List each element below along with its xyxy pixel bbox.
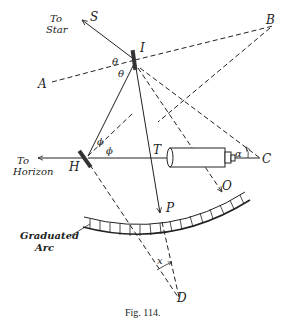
- label-d: D: [176, 291, 187, 305]
- label-b: B: [265, 13, 275, 27]
- label-i: I: [139, 41, 145, 55]
- dashed-line-i-o: [138, 68, 222, 192]
- label-phi-upper: ϕ: [97, 136, 104, 147]
- figure-caption: Fig. 114.: [125, 307, 160, 318]
- label-theta-upper: θ: [112, 56, 118, 67]
- label-o: O: [222, 179, 232, 193]
- angle-alpha-arc: [246, 147, 248, 158]
- ray-i-to-h: [88, 64, 134, 156]
- label-graduated-line2: Arc: [34, 242, 54, 253]
- label-to-star-line1: To: [50, 13, 62, 24]
- label-phi-lower: ϕ: [106, 145, 113, 156]
- label-s: S: [90, 10, 98, 24]
- label-to-horizon-line1: To: [17, 155, 29, 166]
- label-t: T: [153, 143, 162, 157]
- label-theta-lower: θ: [118, 68, 124, 79]
- label-a: A: [37, 77, 47, 91]
- dashed-line-i-b: [135, 26, 273, 60]
- label-c: C: [262, 152, 271, 166]
- label-graduated-line1: Graduated: [20, 230, 79, 241]
- ray-to-star: [82, 20, 135, 60]
- sextant-diagram: To Star S B I A θ θ ϕ ϕ To Horizon H T α…: [0, 0, 286, 323]
- label-to-horizon-line2: Horizon: [12, 166, 53, 177]
- label-h: H: [68, 160, 80, 174]
- dashed-line-b-c: [158, 28, 270, 122]
- ray-i-to-p: [136, 68, 160, 213]
- label-x: x: [157, 255, 163, 266]
- label-alpha: α: [235, 148, 242, 159]
- label-to-star-line2: Star: [46, 24, 69, 35]
- telescope: [167, 148, 235, 167]
- label-p: P: [165, 201, 175, 215]
